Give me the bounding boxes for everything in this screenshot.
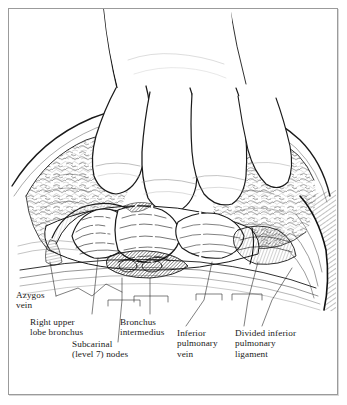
leader-subcarinal-bracket: [108, 300, 140, 306]
leader-ipv-bracket: [196, 294, 222, 300]
label-subcarinal-nodes: Subcarinal (level 7) nodes: [72, 339, 128, 360]
leader-azygos-tip: [50, 262, 56, 296]
leader-ligament-2: [262, 268, 292, 326]
leader-rul-bronchus: [92, 258, 98, 314]
label-inferior-pulmonary-vein: Inferior pulmonary vein: [177, 328, 218, 359]
leader-azygos: [56, 284, 122, 296]
label-azygos-vein: Azygos vein: [16, 290, 45, 311]
label-divided-inferior-pulmonary-ligament: Divided inferior pulmonary ligament: [235, 328, 296, 359]
leader-bronchus-int-bracket: [134, 296, 168, 302]
leader-ligament-bracket: [232, 294, 262, 300]
figure-root: Azygos vein Right upper lobe bronchus Su…: [0, 0, 347, 405]
label-right-upper-lobe-bronchus: Right upper lobe bronchus: [30, 317, 83, 338]
label-bronchus-intermedius: Bronchus intermedius: [120, 317, 164, 338]
